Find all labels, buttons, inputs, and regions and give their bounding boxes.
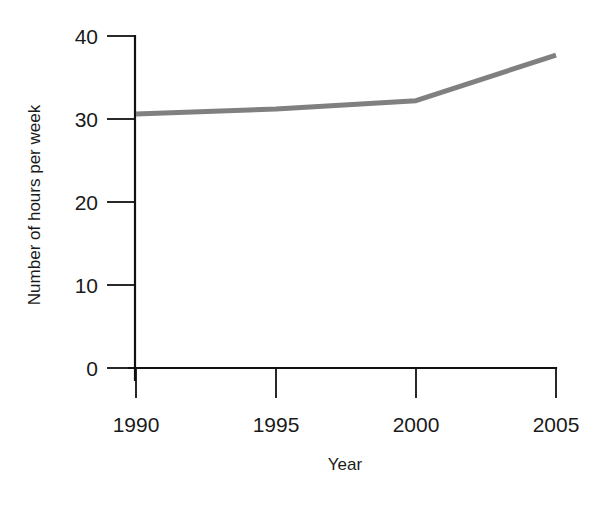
x-tick-label-2000: 2000 [393,413,440,436]
y-axis-title: Number of hours per week [25,104,44,305]
y-tick-label-10: 10 [75,274,98,297]
x-axis-title: Year [328,455,363,474]
y-tick-label-0: 0 [86,357,98,380]
x-tick-label-1995: 1995 [253,413,300,436]
chart-page: 40 30 20 10 0 1990 1995 2000 2005 Year N… [0,0,601,506]
y-tick-label-30: 30 [75,108,98,131]
y-tick-label-20: 20 [75,191,98,214]
data-series-line [136,55,556,114]
line-chart: 40 30 20 10 0 1990 1995 2000 2005 Year N… [0,0,601,506]
x-tick-label-2005: 2005 [533,413,580,436]
x-tick-label-1990: 1990 [113,413,160,436]
y-tick-label-40: 40 [75,25,98,48]
